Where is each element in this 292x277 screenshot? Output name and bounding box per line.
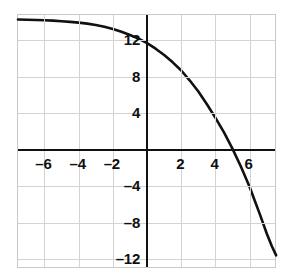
x-axis-tick-label: –4 [70, 156, 86, 171]
gridline-vertical [44, 15, 45, 267]
y-axis [146, 15, 148, 267]
x-axis-tick-label: 2 [176, 156, 184, 171]
y-axis-tick-label: 8 [0, 68, 140, 83]
y-axis-tick-label: –12 [0, 250, 140, 265]
x-axis-tick-label: 6 [245, 156, 253, 171]
y-axis-tick-label: –4 [0, 178, 140, 193]
plot-area [17, 14, 276, 268]
gridline-vertical [181, 15, 182, 267]
y-axis-tick-label: –8 [0, 214, 140, 229]
x-axis-tick-label: 4 [210, 156, 218, 171]
y-axis-tick-label: 12 [0, 32, 140, 47]
y-axis-tick-label: 4 [0, 105, 140, 120]
gridline-vertical [79, 15, 80, 267]
x-axis-tick-label: –2 [104, 156, 120, 171]
gridline-vertical [215, 15, 216, 267]
chart-root: –6–4–22461284–4–8–12 [0, 0, 292, 277]
x-axis-tick-label: –6 [35, 156, 51, 171]
gridline-vertical [250, 15, 251, 267]
gridline-vertical [113, 15, 114, 267]
